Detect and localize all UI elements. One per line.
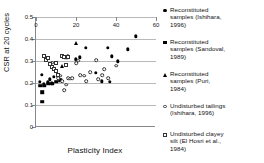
data-point xyxy=(62,88,66,92)
legend-marker-icon xyxy=(160,38,170,44)
legend-label: Reconstituted samples (Puri, 1984) xyxy=(170,70,210,92)
data-point xyxy=(64,63,68,67)
gridline xyxy=(36,105,156,106)
data-point xyxy=(116,60,119,63)
gridline xyxy=(36,39,156,40)
data-point xyxy=(76,59,80,63)
x-tick-label: 40 xyxy=(113,22,120,28)
plot-wrapper: CSR at 20 cycles 00.10.20.30.40.5 020406… xyxy=(0,0,160,163)
data-point xyxy=(56,73,60,77)
chart-legend: Reconstituted samples (Ishihara, 1996)Re… xyxy=(160,3,264,161)
legend-item: Undisturbed clayey silt (El Hosri et al.… xyxy=(160,130,264,152)
data-point xyxy=(94,59,98,63)
legend-marker-icon xyxy=(160,70,170,77)
legend-label: Undisturbed clayey silt (El Hosri et al.… xyxy=(170,130,224,152)
x-tick-label: 20 xyxy=(73,22,80,28)
data-point xyxy=(64,83,68,87)
data-point xyxy=(74,41,78,45)
data-point xyxy=(106,46,109,49)
data-point xyxy=(40,73,43,76)
data-point xyxy=(40,100,44,104)
data-point xyxy=(84,79,88,83)
data-point xyxy=(70,77,74,81)
data-point xyxy=(96,77,100,81)
gridline xyxy=(36,17,156,18)
y-tick-label: 0.1 xyxy=(25,102,33,108)
legend-marker-icon xyxy=(160,130,170,137)
data-point xyxy=(46,56,50,60)
y-axis-title: CSR at 20 cycles xyxy=(2,13,11,72)
legend-item: Undisturbed tailings (Ishihara, 1996) xyxy=(160,102,264,117)
x-tick-label: 0 xyxy=(34,22,37,28)
data-point xyxy=(84,46,87,49)
legend-marker-icon xyxy=(160,6,170,12)
y-tick-label: 0.2 xyxy=(25,80,33,86)
data-point xyxy=(134,34,137,37)
data-point xyxy=(54,61,58,65)
data-point xyxy=(100,73,104,77)
x-tick xyxy=(156,17,157,21)
x-tick-label: 60 xyxy=(153,22,160,28)
data-point xyxy=(94,71,97,74)
x-axis-title: Plasticity Index xyxy=(68,146,123,155)
legend-item: Reconstituted samples (Ishihara, 1996) xyxy=(160,6,264,28)
legend-item: Reconstituted samples (Puri, 1984) xyxy=(160,70,264,92)
csr-plasticity-index-scatter-chart: CSR at 20 cycles 00.10.20.30.40.5 020406… xyxy=(0,0,264,163)
data-point xyxy=(88,70,92,74)
legend-label: Undisturbed tailings (Ishihara, 1996) xyxy=(170,102,225,117)
x-tick xyxy=(76,17,77,21)
plot-area: 00.10.20.30.40.5 0204060 xyxy=(35,17,155,127)
data-point xyxy=(40,91,44,95)
y-tick-label: 0.5 xyxy=(25,14,33,20)
legend-label: Reconstituted samples (Ishihara, 1996) xyxy=(170,6,221,28)
legend-label: Reconstituted samples (Sandoval, 1989) xyxy=(170,38,225,60)
data-point xyxy=(82,74,86,78)
x-tick xyxy=(36,17,37,21)
y-tick-label: 0.3 xyxy=(25,58,33,64)
data-point xyxy=(126,48,129,51)
y-tick-label: 0 xyxy=(30,124,33,130)
y-tick-label: 0.4 xyxy=(25,36,33,42)
data-point xyxy=(106,76,110,80)
data-point xyxy=(48,78,51,81)
data-point xyxy=(110,54,113,57)
legend-marker-icon xyxy=(160,102,170,108)
data-point xyxy=(66,55,70,59)
data-point xyxy=(60,79,64,83)
legend-item: Reconstituted samples (Sandoval, 1989) xyxy=(160,38,264,60)
x-tick xyxy=(116,17,117,21)
data-point xyxy=(102,68,106,72)
data-point xyxy=(114,64,118,68)
